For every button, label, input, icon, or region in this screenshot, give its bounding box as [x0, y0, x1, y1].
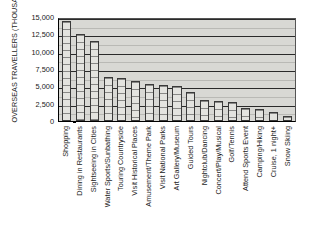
bar — [241, 108, 250, 121]
bar — [186, 92, 195, 121]
x-tick-slot: Visit Historical Places — [128, 124, 142, 234]
bar-slot — [253, 19, 267, 121]
bar-chart-figure: OVERSEAS TRAVELLERS (THOUSANDS) 15,00012… — [0, 0, 310, 236]
x-axis-tick-label: Sightseeing in Cities — [90, 126, 98, 192]
x-tick-slot: Water Sports/Sunbathing — [101, 124, 115, 234]
x-tick-slot: Touring Countryside — [115, 124, 129, 234]
x-tick-slot: Guided Tours — [184, 124, 198, 234]
y-axis-tick-label: 7,500 — [18, 66, 54, 73]
bar — [131, 81, 140, 121]
x-axis-tick-labels: ShoppingDining in RestaurantsSightseeing… — [58, 124, 296, 234]
x-tick-slot: Nightclub/Dancing — [198, 124, 212, 234]
x-axis-tick-label: Snow Skiing — [284, 126, 292, 166]
bar-slot — [101, 19, 115, 121]
x-axis-tick-label: Amusement/Theme Park — [145, 126, 153, 207]
x-axis-tick-label: Visit Historical Places — [132, 126, 140, 196]
bar-slot — [156, 19, 170, 121]
x-tick-slot: Art Gallery/Museum — [170, 124, 184, 234]
bar-slot — [266, 19, 280, 121]
y-axis-tick-label: 12,500 — [18, 32, 54, 39]
bar-slot — [129, 19, 143, 121]
bar-slot — [225, 19, 239, 121]
bar-slot — [280, 19, 294, 121]
bar — [62, 21, 71, 121]
x-axis-tick-label: Visit National Parks — [159, 126, 167, 189]
bars-layer — [59, 19, 295, 121]
x-tick-slot: Cruise, 1 night+ — [267, 124, 281, 234]
x-axis-tick-label: Shopping — [62, 126, 70, 157]
y-axis-tick-label: 2,500 — [18, 101, 54, 108]
y-axis-tick-label: 5,000 — [18, 84, 54, 91]
bar — [172, 86, 181, 121]
bar — [117, 78, 126, 121]
bar-slot — [184, 19, 198, 121]
bar — [104, 77, 113, 121]
x-tick-slot: Sightseeing in Cities — [87, 124, 101, 234]
bar-slot — [239, 19, 253, 121]
bar-slot — [198, 19, 212, 121]
y-axis-tick-label: 15,000 — [18, 14, 54, 21]
plot-area — [58, 18, 296, 122]
bar-slot — [115, 19, 129, 121]
x-axis-tick-label: Concert/Play/Musical — [215, 126, 223, 195]
bar — [214, 101, 223, 121]
bar-slot — [211, 19, 225, 121]
bar — [228, 102, 237, 121]
bar-slot — [74, 19, 88, 121]
x-tick-slot: Snow Skiing — [281, 124, 295, 234]
bar — [269, 112, 278, 121]
x-tick-slot: Visit National Parks — [156, 124, 170, 234]
x-tick-slot: Golf/Tennis — [226, 124, 240, 234]
y-axis-tick-mark — [73, 122, 76, 123]
bar-slot — [170, 19, 184, 121]
bar — [255, 109, 264, 121]
bar — [159, 85, 168, 121]
x-axis-tick-label: Dining in Restaurants — [76, 126, 84, 196]
x-axis-tick-label: Guided Tours — [187, 126, 195, 169]
x-axis-tick-label: Attend Sports Event — [243, 126, 251, 191]
bar — [283, 116, 292, 121]
bar-slot — [143, 19, 157, 121]
x-axis-tick-label: Golf/Tennis — [229, 126, 237, 163]
bar — [90, 41, 99, 121]
x-axis-tick-label: Water Sports/Sunbathing — [104, 126, 112, 207]
x-axis-tick-label: Nightclub/Dancing — [201, 126, 209, 185]
bar-slot — [60, 19, 74, 121]
x-tick-slot: Attend Sports Event — [239, 124, 253, 234]
x-tick-slot: Shopping — [59, 124, 73, 234]
x-tick-slot: Concert/Play/Musical — [212, 124, 226, 234]
bar — [145, 84, 154, 121]
bar — [200, 100, 209, 121]
x-axis-tick-label: Cruise, 1 night+ — [270, 126, 278, 177]
x-axis-tick-label: Art Gallery/Museum — [173, 126, 181, 190]
y-axis-tick-label: 0 — [18, 118, 54, 125]
x-axis-tick-label: Touring Countryside — [118, 126, 126, 191]
y-axis-tick-label: 10,000 — [18, 49, 54, 56]
x-tick-slot: Dining in Restaurants — [73, 124, 87, 234]
x-axis-tick-label: Camping/Hiking — [256, 126, 264, 178]
y-axis-tick-labels: 15,00012,50010,0007,5005,0002,5000 — [18, 18, 54, 122]
x-tick-slot: Camping/Hiking — [253, 124, 267, 234]
bar — [76, 34, 85, 121]
bar-slot — [88, 19, 102, 121]
x-tick-slot: Amusement/Theme Park — [142, 124, 156, 234]
